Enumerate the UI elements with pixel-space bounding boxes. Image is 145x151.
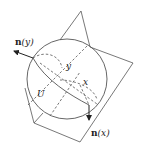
label-U: U: [37, 90, 45, 99]
plane-lower-outline: [25, 88, 80, 142]
label-n-y: n(y): [15, 38, 34, 47]
plane-upper-outline: [60, 11, 133, 142]
sphere-outline: [27, 39, 107, 119]
label-y: y: [66, 62, 71, 71]
hidden-curve-y: [33, 54, 62, 68]
diagram-canvas: [0, 0, 145, 151]
label-x: x: [83, 78, 88, 87]
hidden-curve-x: [60, 80, 97, 100]
normal-y-arrow: [14, 51, 33, 58]
label-n-x: n(x): [91, 129, 110, 138]
